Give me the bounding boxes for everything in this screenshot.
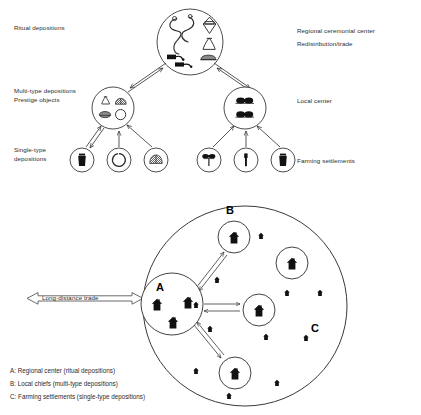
top-hierarchy-diagram	[70, 9, 295, 172]
vessel-flat-icon	[200, 55, 216, 60]
label-prestige-objects: Prestige objects	[14, 96, 60, 104]
local-center-node	[224, 87, 266, 129]
label-redistribution-trade: Redistribution/trade	[297, 40, 353, 48]
multi-type-node	[92, 87, 134, 129]
chief-site-south	[219, 357, 251, 389]
farming-node-6	[271, 148, 295, 172]
arrow-regional-to-multitype	[128, 63, 166, 92]
label-multi-type-depositions: Multi-type depositions	[14, 87, 76, 95]
label-local-center: Local center	[297, 97, 332, 105]
farming-node-2	[107, 148, 131, 172]
legend-item-a: A: Regional center (ritual depositions)	[10, 366, 115, 376]
legend-item-c: C: Farming settlements (single-type depo…	[10, 392, 145, 402]
chief-site-east	[276, 247, 308, 279]
legend-item-b: B: Local chiefs (multi-type depositions)	[10, 379, 118, 389]
chief-site-north	[218, 221, 250, 253]
hatched-object-icon	[150, 155, 162, 163]
farming-node-4	[197, 148, 221, 172]
dark-oval-icon	[99, 112, 111, 118]
bottom-territory-diagram	[27, 206, 347, 406]
farming-node-1	[70, 148, 94, 172]
letter-B: B	[226, 204, 234, 216]
label-long-distance-trade: Long-distance trade	[42, 294, 99, 302]
letter-A: A	[156, 281, 164, 293]
chief-site-center	[243, 294, 275, 326]
label-regional-ceremonial-center: Regional ceremonial center	[297, 27, 375, 35]
regional-center-node	[157, 9, 223, 75]
label-farming-settlements: Farming settlements	[297, 157, 355, 165]
label-single-type-depositions: depositions	[14, 155, 46, 163]
letter-C: C	[311, 322, 319, 334]
label-single-type: Single-type	[14, 146, 46, 154]
figure-canvas: Ritual depositions Multi-type deposition…	[0, 0, 421, 415]
farming-node-5	[234, 148, 258, 172]
farming-node-3	[144, 148, 168, 172]
label-ritual-depositions: Ritual depositions	[14, 24, 65, 32]
diagram-vector-layer	[0, 0, 421, 415]
